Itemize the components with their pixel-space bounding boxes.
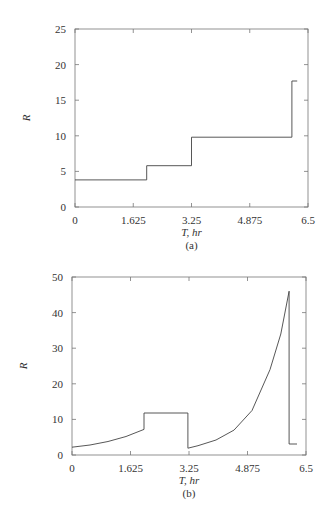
x-axis-label: T, hr (179, 474, 200, 486)
plot-b: 01.6253.254.8756.501020304050T, hrR(b) (17, 271, 313, 500)
data-line (72, 291, 297, 448)
chart-figure: 01.6253.254.8756.50510152025T, hrR(a)01.… (0, 0, 331, 521)
y-tick-label: 30 (52, 342, 64, 354)
x-axis-label: T, hr (181, 226, 202, 238)
y-tick-label: 20 (55, 59, 67, 71)
x-tick-label: 4.875 (237, 214, 262, 226)
y-tick-label: 0 (61, 201, 67, 213)
y-tick-label: 40 (52, 307, 64, 319)
x-tick-label: 6.5 (299, 462, 313, 474)
x-tick-label: 3.25 (182, 214, 202, 226)
x-tick-label: 1.625 (118, 462, 143, 474)
plot-a: 01.6253.254.8756.50510152025T, hrR(a) (20, 23, 315, 252)
data-line (75, 81, 297, 180)
y-tick-label: 20 (52, 378, 64, 390)
x-tick-label: 0 (69, 462, 75, 474)
y-tick-label: 0 (58, 449, 64, 461)
figure-caption: (b) (183, 487, 196, 500)
x-tick-label: 6.5 (301, 214, 315, 226)
y-tick-label: 15 (55, 94, 67, 106)
y-tick-label: 10 (52, 413, 64, 425)
x-tick-label: 3.25 (179, 462, 199, 474)
y-tick-label: 50 (52, 271, 64, 283)
y-tick-label: 5 (61, 165, 67, 177)
y-axis-label: R (20, 114, 32, 122)
x-tick-label: 4.875 (235, 462, 260, 474)
y-axis-label: R (17, 362, 29, 370)
x-tick-label: 0 (72, 214, 78, 226)
figure-caption: (a) (185, 239, 198, 252)
y-tick-label: 25 (55, 23, 67, 35)
y-tick-label: 10 (55, 130, 67, 142)
x-tick-label: 1.625 (121, 214, 146, 226)
